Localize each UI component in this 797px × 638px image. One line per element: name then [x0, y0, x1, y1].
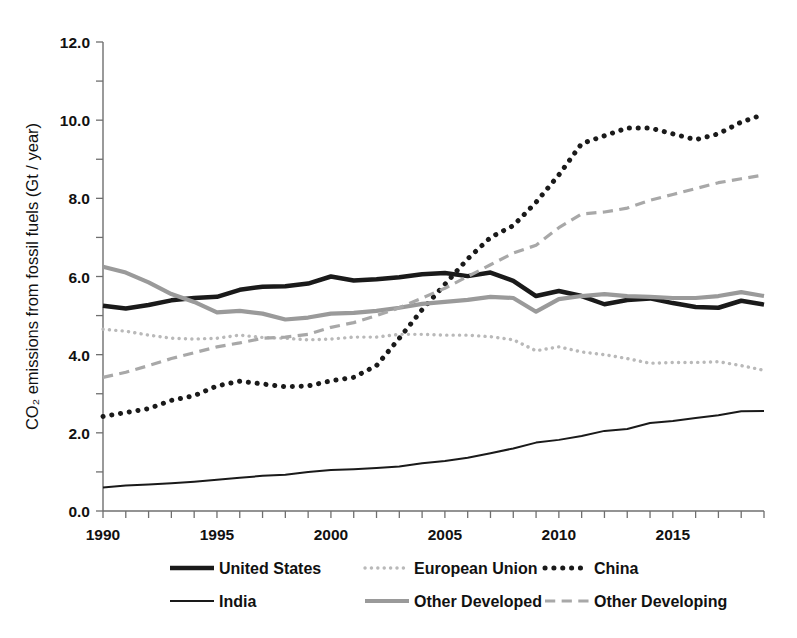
y-tick-label: 0.0 [68, 503, 90, 520]
x-tick-label: 2005 [428, 526, 463, 543]
x-tick-label: 1995 [200, 526, 235, 543]
legend-label-text: Other Developed [414, 593, 542, 610]
chart-figure: 0.02.04.06.08.010.012.0 1990199520002005… [0, 0, 797, 638]
x-tick-label: 2010 [542, 526, 576, 543]
y-tick-label: 4.0 [68, 347, 90, 364]
x-tick-label: 2015 [656, 526, 691, 543]
chart-axes [96, 42, 764, 518]
y-axis-title: CO₂ emissions from fossil fuels (Gt / ye… [23, 123, 41, 430]
chart-legend: United StatesEuropean UnionChinaIndiaOth… [170, 560, 727, 610]
legend-label-text: China [594, 560, 639, 577]
legend-label-text: Other Developing [594, 593, 727, 610]
legend-label-text: United States [219, 560, 321, 577]
legend-item-european-union[interactable]: European Union [365, 560, 538, 577]
legend-item-china[interactable]: China [545, 560, 639, 577]
x-tick-label: 2000 [314, 526, 348, 543]
y-tick-label: 12.0 [60, 34, 90, 51]
x-axis-tick-labels: 199019952000200520102015 [86, 526, 691, 543]
legend-item-india[interactable]: India [170, 593, 256, 610]
y-tick-label: 10.0 [60, 112, 90, 129]
legend-item-other-developing[interactable]: Other Developing [545, 593, 727, 610]
x-tick-label: 1990 [86, 526, 120, 543]
line-chart: 0.02.04.06.08.010.012.0 1990199520002005… [0, 0, 797, 638]
y-tick-label: 8.0 [68, 190, 90, 207]
series-line-other-developing [103, 175, 764, 377]
y-axis-tick-labels: 0.02.04.06.08.010.012.0 [60, 34, 90, 520]
chart-series [103, 114, 764, 487]
legend-label-text: India [219, 593, 256, 610]
legend-item-united-states[interactable]: United States [170, 560, 321, 577]
series-line-china [103, 114, 764, 416]
y-axis-title-text: CO₂ emissions from fossil fuels (Gt / ye… [23, 123, 41, 430]
y-tick-label: 2.0 [68, 425, 90, 442]
y-tick-label: 6.0 [68, 269, 90, 286]
series-line-india [103, 411, 764, 488]
legend-label-text: European Union [414, 560, 538, 577]
legend-item-other-developed[interactable]: Other Developed [365, 593, 542, 610]
